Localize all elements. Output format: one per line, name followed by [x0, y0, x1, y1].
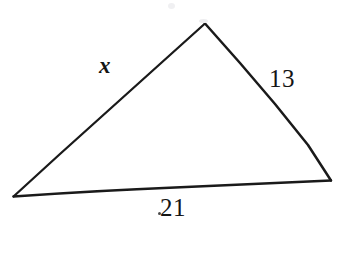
triangle-side-left — [14, 24, 206, 197]
side-label-13: 13 — [269, 66, 295, 91]
side-label-21: 21 — [160, 195, 186, 220]
side-label-x: x — [99, 54, 111, 77]
scan-artifact-near-label-21 — [158, 212, 161, 215]
scan-artifact-top — [168, 3, 175, 9]
triangle-side-right — [205, 24, 331, 181]
scan-artifact-apex — [199, 19, 208, 23]
triangle-figure: x 13 21 — [0, 0, 347, 274]
triangle-drawing — [0, 0, 347, 274]
